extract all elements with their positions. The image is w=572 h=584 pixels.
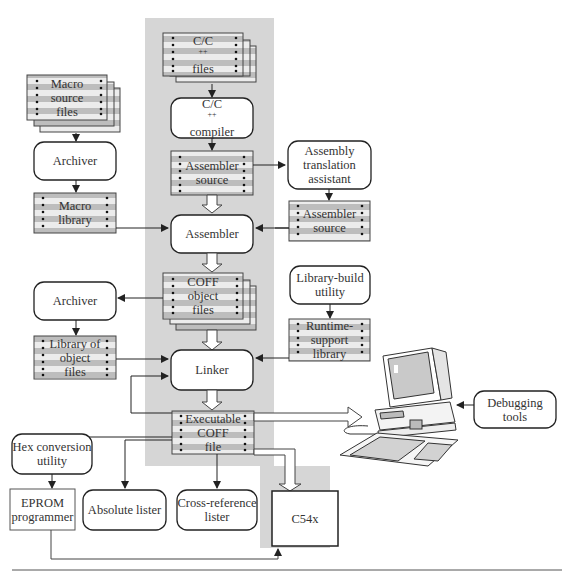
computer-icon bbox=[340, 348, 458, 466]
cross-reference-box[interactable] bbox=[177, 490, 257, 530]
assembler-source-main[interactable] bbox=[171, 151, 253, 195]
c54x-box[interactable] bbox=[272, 491, 338, 546]
hex-conversion-box[interactable] bbox=[12, 434, 92, 474]
flow-diagram bbox=[0, 0, 572, 584]
macro-library[interactable] bbox=[34, 193, 116, 233]
library-of-object-files[interactable] bbox=[34, 336, 116, 379]
executable-coff-file[interactable] bbox=[172, 411, 254, 454]
coff-object-stack[interactable] bbox=[163, 273, 256, 330]
eprom-programmer-box[interactable] bbox=[10, 489, 75, 530]
macro-source-stack[interactable] bbox=[27, 75, 120, 132]
c-files-stack[interactable] bbox=[163, 33, 256, 82]
assembler-source-side[interactable] bbox=[289, 201, 370, 241]
c-compiler-box[interactable] bbox=[171, 98, 253, 138]
absolute-lister-box[interactable] bbox=[83, 490, 166, 530]
library-build-box[interactable] bbox=[290, 266, 370, 304]
assembly-translation-box[interactable] bbox=[288, 141, 371, 189]
linker-box[interactable] bbox=[171, 350, 253, 390]
archiver-top-box[interactable] bbox=[34, 142, 116, 180]
assembler-box[interactable] bbox=[171, 215, 253, 253]
archiver-bottom-box[interactable] bbox=[34, 282, 116, 320]
debugging-tools-box[interactable] bbox=[474, 391, 556, 428]
runtime-support-library[interactable] bbox=[289, 319, 370, 361]
